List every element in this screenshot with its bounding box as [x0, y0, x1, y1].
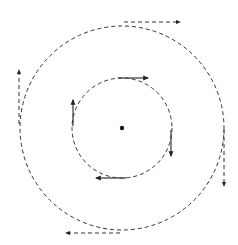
center-point [120, 126, 124, 130]
concentric-circles-diagram [0, 0, 238, 245]
